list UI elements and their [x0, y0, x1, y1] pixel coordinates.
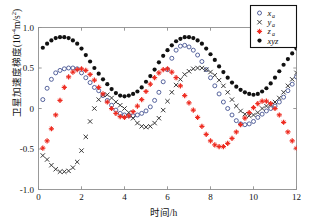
marker-open-circle [92, 85, 96, 89]
marker-filled-circle [269, 81, 273, 85]
marker-crosshair-center [261, 100, 263, 102]
marker-crosshair-center [55, 114, 57, 116]
marker-filled-circle [208, 52, 212, 56]
marker-filled-circle [217, 64, 221, 68]
marker-open-circle [67, 66, 71, 70]
marker-open-circle [230, 113, 234, 117]
marker-filled-circle [92, 66, 96, 70]
series-y_a [41, 66, 299, 173]
marker-filled-circle [273, 76, 277, 80]
marker-open-circle [269, 107, 273, 111]
marker-filled-circle [71, 38, 75, 42]
marker-crosshair-center [175, 77, 177, 79]
marker-filled-circle [257, 39, 261, 43]
marker-filled-circle [114, 91, 118, 95]
marker-crosshair-center [68, 76, 70, 78]
marker-filled-circle [127, 93, 131, 97]
marker-crosshair-center [296, 147, 298, 149]
y-tick-label: 0 [30, 104, 35, 114]
marker-open-circle [88, 81, 92, 85]
marker-filled-circle [213, 58, 217, 62]
marker-crosshair-center [283, 121, 285, 123]
marker-crosshair-center [76, 69, 78, 71]
marker-filled-circle [239, 88, 243, 92]
marker-filled-circle [247, 92, 251, 96]
marker-filled-circle [62, 35, 66, 39]
marker-open-circle [161, 80, 165, 84]
marker-crosshair-center [244, 117, 246, 119]
legend-label-subscript: a [272, 22, 275, 28]
marker-open-circle [213, 84, 217, 88]
marker-open-circle [277, 100, 281, 104]
marker-crosshair-center [184, 95, 186, 97]
marker-open-circle [80, 71, 84, 75]
marker-crosshair-center [218, 146, 220, 148]
legend-label-subscript: a [272, 13, 275, 19]
marker-filled-circle [67, 36, 71, 40]
marker-filled-circle [135, 89, 139, 93]
marker-open-circle [226, 107, 230, 111]
marker-open-circle [157, 90, 161, 94]
legend-label: xyz [267, 36, 280, 46]
marker-open-circle [256, 115, 260, 119]
marker-filled-circle [75, 42, 79, 46]
marker-open-circle [54, 71, 58, 75]
marker-crosshair-center [106, 101, 108, 103]
marker-filled-circle [196, 38, 200, 42]
marker-open-circle [200, 60, 204, 64]
marker-open-circle [58, 68, 62, 72]
marker-filled-circle [153, 68, 157, 72]
series-z_a [40, 66, 299, 151]
marker-crosshair-center [192, 109, 194, 111]
marker-filled-circle [170, 43, 174, 47]
marker-filled-circle [79, 46, 83, 50]
marker-open-circle [62, 67, 66, 71]
marker-filled-circle [251, 93, 255, 97]
marker-crosshair-center [270, 103, 272, 105]
marker-crosshair-center [223, 146, 225, 148]
legend: xayazaxyz [251, 6, 297, 48]
y-tick-label: 0.5 [23, 63, 35, 73]
marker-filled-circle [88, 59, 92, 63]
plot-canvas: 024681012-1.0-0.500.51.0xayazaxyz [0, 0, 309, 222]
marker-open-circle [264, 109, 268, 113]
marker-filled-circle [49, 38, 53, 42]
marker-crosshair-center [115, 112, 117, 114]
x-tick-label: 12 [292, 192, 301, 202]
marker-crosshair-center [235, 131, 237, 133]
marker-crosshair-center [274, 108, 276, 110]
marker-open-circle [282, 95, 286, 99]
marker-filled-circle [204, 46, 208, 50]
marker-filled-circle [131, 92, 135, 96]
marker-open-circle [148, 105, 152, 109]
marker-crosshair-center [197, 117, 199, 119]
marker-open-circle [45, 86, 49, 90]
marker-filled-circle [161, 54, 165, 58]
marker-filled-circle [260, 89, 264, 93]
marker-crosshair-center [266, 100, 268, 102]
marker-filled-circle [148, 74, 152, 78]
marker-open-circle [41, 98, 45, 102]
marker-filled-circle [122, 94, 126, 98]
marker-filled-circle [97, 72, 101, 76]
marker-crosshair-center [205, 134, 207, 136]
marker-open-circle [153, 98, 157, 102]
marker-crosshair-center [119, 116, 121, 118]
marker-open-circle [290, 82, 294, 86]
marker-filled-circle [41, 46, 45, 50]
marker-filled-circle [256, 92, 260, 96]
x-tick-label: 0 [36, 192, 41, 202]
marker-open-circle [209, 76, 213, 80]
marker-crosshair-center [102, 93, 104, 95]
y-tick-label: -0.5 [20, 144, 35, 154]
marker-filled-circle [290, 51, 294, 55]
marker-filled-circle [45, 42, 49, 46]
marker-open-circle [170, 56, 174, 60]
marker-filled-circle [230, 80, 234, 84]
marker-filled-circle [144, 80, 148, 84]
marker-crosshair-center [94, 79, 96, 81]
marker-crosshair-center [72, 71, 74, 73]
marker-filled-circle [118, 93, 122, 97]
marker-filled-circle [221, 70, 225, 74]
marker-crosshair-center [227, 142, 229, 144]
